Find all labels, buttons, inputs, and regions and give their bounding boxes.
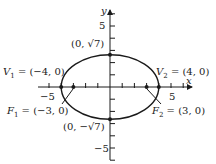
y-axis-label: y [100,5,107,16]
point-top [108,53,112,57]
point-bottom [108,117,112,121]
point-v1 [59,85,63,89]
point-v2 [157,85,161,89]
point-label-bottom: (0, −√7) [63,121,105,132]
tick-label-x-neg5: −5 [40,91,55,102]
point-f2 [145,85,149,89]
point-f1 [71,85,75,89]
tick-label-y-pos5: 5 [99,20,105,31]
point-label-top: (0, √7) [71,38,104,49]
point-label-v1: V1 = (−4, 0) [3,66,65,80]
point-label-f1: F1 = (−3, 0) [6,105,69,119]
point-label-v2: V2 = (4, 0) [156,66,209,80]
ellipse-diagram: x y −5 5 5 −5 (0, √7) (0, −√7) V1 = (−4,… [0,0,216,164]
tick-label-x-pos5: 5 [169,91,175,102]
tick-label-y-neg5: −5 [94,143,109,154]
point-label-f2: F2 = (3, 0) [151,105,205,119]
